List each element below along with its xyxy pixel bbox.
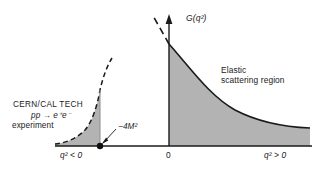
left-region-axis-label: q² < 0 (60, 151, 82, 161)
elastic-region-label-line1: Elastic (221, 65, 246, 75)
right-shaded-area (169, 44, 310, 146)
right-region-axis-label: q² > 0 (264, 151, 286, 161)
origin-label: 0 (166, 151, 171, 161)
experiment-label-line3: experiment (12, 121, 54, 131)
physics-form-factor-diagram: CERN/CAL TECH pp → e⁺e⁻ experiment −4M² … (0, 0, 316, 176)
elastic-curve-dashed-extension (152, 14, 169, 44)
elastic-region-label-line2: scattering region (221, 75, 285, 85)
vertical-axis-arrowhead (166, 14, 173, 24)
threshold-dot (97, 143, 103, 149)
experiment-label-line2: pp → e⁺e⁻ (31, 111, 71, 121)
experiment-label-line1: CERN/CAL TECH (13, 100, 83, 110)
elastic-region-label: Elastic scattering region (221, 66, 285, 86)
vertical-axis-label: G(q²) (186, 13, 207, 23)
threshold-label: −4M² (118, 122, 137, 132)
